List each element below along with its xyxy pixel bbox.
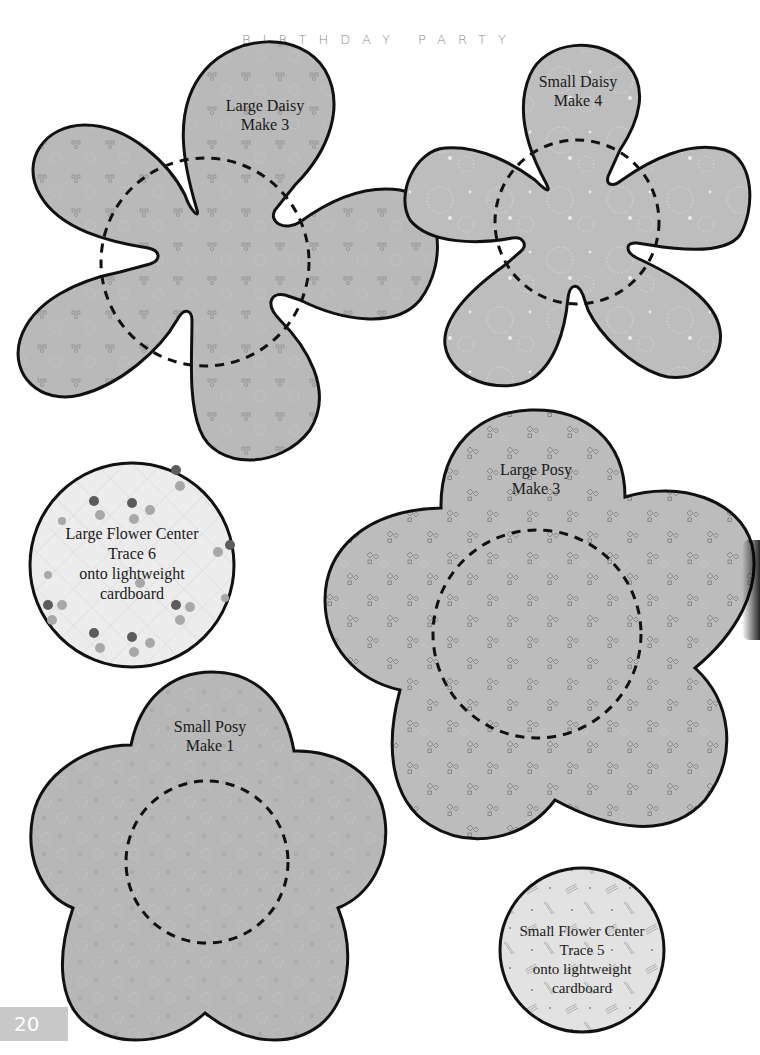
template-quantity: Trace 6 <box>52 544 212 564</box>
template-name: Small Flower Center <box>507 922 657 941</box>
template-note: cardboard <box>52 584 212 604</box>
template-note: cardboard <box>507 979 657 998</box>
template-note: onto lightweight <box>507 960 657 979</box>
large-daisy-label: Large Daisy Make 3 <box>205 96 325 134</box>
page-edge-shadow <box>742 540 760 640</box>
template-name: Small Daisy <box>518 72 638 91</box>
small-posy-label: Small Posy Make 1 <box>150 717 270 755</box>
template-note: onto lightweight <box>52 564 212 584</box>
small-daisy-label: Small Daisy Make 4 <box>518 72 638 110</box>
template-quantity: Make 3 <box>205 115 325 134</box>
large-flower-center-label: Large Flower Center Trace 6 onto lightwe… <box>52 524 212 604</box>
large-posy-label: Large Posy Make 3 <box>476 460 596 498</box>
template-quantity: Trace 5 <box>507 941 657 960</box>
template-quantity: Make 3 <box>476 479 596 498</box>
small-flower-center-label: Small Flower Center Trace 5 onto lightwe… <box>507 922 657 998</box>
template-name: Large Posy <box>476 460 596 479</box>
template-quantity: Make 4 <box>518 91 638 110</box>
template-name: Large Daisy <box>205 96 325 115</box>
template-quantity: Make 1 <box>150 736 270 755</box>
page-number: 20 <box>0 1007 68 1041</box>
template-name: Small Posy <box>150 717 270 736</box>
template-name: Large Flower Center <box>52 524 212 544</box>
